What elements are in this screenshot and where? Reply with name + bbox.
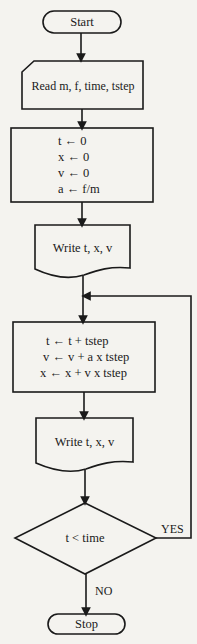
decision-label: t < time — [35, 532, 135, 545]
start-label: Start — [43, 16, 121, 29]
output1-label: Write t, x, v — [35, 242, 130, 255]
stop-label: Stop — [48, 618, 125, 631]
init-line-v: v ← 0 — [58, 165, 100, 181]
flowchart-diagram — [0, 0, 197, 644]
init-line-t: t ← 0 — [58, 133, 100, 149]
input-label: Read m, f, time, tstep — [22, 80, 144, 92]
init-statements: t ← 0 x ← 0 v ← 0 a ← f/m — [58, 133, 100, 197]
update-statements: t ← t + tstep v ← v + a x tstep x ← x + … — [40, 333, 129, 381]
update-line-v: v ← v + a x tstep — [40, 349, 129, 365]
init-line-x: x ← 0 — [58, 149, 100, 165]
yes-label: YES — [161, 523, 184, 535]
init-line-a: a ← f/m — [58, 181, 100, 197]
no-label: NO — [95, 585, 112, 597]
update-line-t: t ← t + tstep — [40, 333, 129, 349]
update-line-x: x ← x + v x tstep — [40, 365, 129, 381]
output2-label: Write t, x, v — [36, 436, 133, 449]
